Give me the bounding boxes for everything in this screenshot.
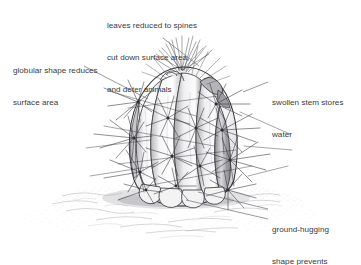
label-line: surface area — [13, 98, 98, 109]
label-swollen-stem: swollen stem stores water — [272, 77, 343, 162]
diagram-canvas: leaves reduced to spines cut down surfac… — [0, 0, 361, 265]
label-leaves-reduced-to-spines: leaves reduced to spines cut down surfac… — [107, 0, 197, 117]
label-line: shape prevents — [272, 257, 339, 265]
label-line: cut down surface area, — [107, 53, 197, 64]
label-line: water — [272, 130, 343, 141]
label-line: ground-hugging — [272, 225, 339, 236]
label-globular-shape: globular shape reduces surface area — [13, 45, 98, 130]
label-line: and deter animals — [107, 85, 197, 96]
label-line: globular shape reduces — [13, 66, 98, 77]
label-line: swollen stem stores — [272, 98, 343, 109]
label-line: leaves reduced to spines — [107, 21, 197, 32]
label-ground-hugging-shape: ground-hugging shape prevents exposure t… — [272, 204, 339, 265]
leader-line-swollen — [243, 82, 268, 92]
